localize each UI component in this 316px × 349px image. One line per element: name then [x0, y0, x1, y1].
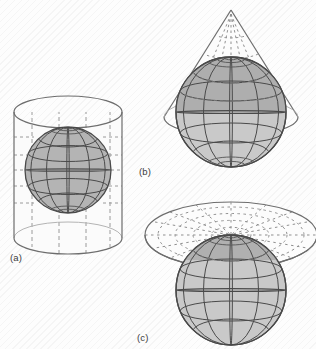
globe-conical — [176, 55, 286, 169]
cylinder-top-rim — [14, 96, 122, 128]
globe-cylindrical — [25, 125, 111, 215]
panel-label-b: (b) — [139, 166, 151, 177]
panel-a-drawing — [0, 0, 316, 349]
projection-surfaces-figure: (a) (b) (c) — [0, 0, 316, 349]
panel-label-a: (a) — [10, 252, 22, 263]
panel-label-c: (c) — [137, 332, 149, 343]
globe-sphere-a — [25, 127, 111, 213]
